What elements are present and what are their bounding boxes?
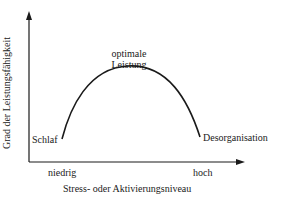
x-axis-arrow-icon — [236, 159, 245, 165]
peak-label: optimale Leistung — [109, 48, 149, 70]
inverted-u-diagram — [0, 0, 288, 197]
desorganisation-label: Desorganisation — [203, 132, 268, 143]
x-low-label: niedrig — [48, 167, 76, 178]
y-axis-arrow-icon — [26, 11, 32, 20]
x-high-label: hoch — [193, 167, 212, 178]
peak-label-line2: Leistung — [109, 59, 149, 70]
schlaf-label: Schlaf — [32, 134, 58, 145]
y-axis-label: Grad der Leistungsfähigkeit — [1, 23, 12, 163]
performance-curve — [62, 66, 200, 139]
x-axis-label: Stress- oder Aktivierungsniveau — [63, 183, 191, 194]
peak-label-line1: optimale — [109, 48, 149, 59]
